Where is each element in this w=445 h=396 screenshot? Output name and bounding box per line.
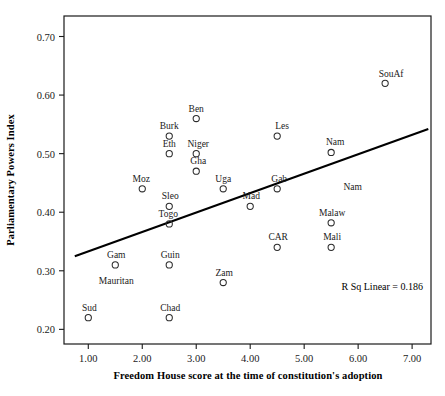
point-label: Niger bbox=[187, 139, 209, 149]
point-label: Gab bbox=[271, 174, 287, 184]
point-label: Ben bbox=[189, 104, 205, 114]
y-tick-label: 0.60 bbox=[37, 90, 55, 101]
point-label: Zam bbox=[216, 268, 234, 278]
y-tick-label: 0.70 bbox=[37, 32, 55, 43]
x-tick-label: 1.00 bbox=[79, 353, 97, 364]
point-label: Chad bbox=[160, 303, 180, 313]
x-tick-label: 6.00 bbox=[349, 353, 367, 364]
point-label: Nam bbox=[344, 182, 363, 192]
y-tick-label: 0.40 bbox=[37, 207, 55, 218]
x-tick-label: 7.00 bbox=[403, 353, 421, 364]
x-tick-label: 3.00 bbox=[187, 353, 205, 364]
r-squared-annotation: R Sq Linear = 0.186 bbox=[342, 281, 423, 292]
x-tick-label: 4.00 bbox=[241, 353, 259, 364]
point-label: Burk bbox=[160, 121, 179, 131]
point-label: Mali bbox=[323, 232, 341, 242]
point-label: Les bbox=[275, 121, 289, 131]
point-label: Sleo bbox=[162, 191, 179, 201]
scatter-chart: 1.002.003.004.005.006.007.00 0.200.300.4… bbox=[0, 0, 445, 396]
y-tick-label: 0.50 bbox=[37, 149, 55, 160]
chart-canvas: 1.002.003.004.005.006.007.00 0.200.300.4… bbox=[0, 0, 445, 396]
data-point: Nam bbox=[344, 182, 363, 192]
x-tick-label: 5.00 bbox=[295, 353, 313, 364]
point-label: Nam bbox=[326, 137, 345, 147]
point-label: Uga bbox=[215, 174, 232, 184]
point-label: Guin bbox=[161, 250, 180, 260]
point-label: CAR bbox=[268, 232, 288, 242]
point-label: Moz bbox=[133, 174, 150, 184]
x-axis-title: Freedom House score at the time of const… bbox=[113, 370, 382, 381]
y-tick-label: 0.30 bbox=[37, 266, 55, 277]
point-label: Malaw bbox=[319, 208, 346, 218]
point-label: Eth bbox=[163, 139, 176, 149]
point-label: Mad bbox=[242, 191, 260, 201]
point-label: Togo bbox=[159, 209, 179, 219]
point-label: SouAf bbox=[379, 69, 405, 79]
point-label: Gha bbox=[190, 156, 207, 166]
point-label: Gam bbox=[107, 250, 126, 260]
data-point: Mauritan bbox=[99, 276, 134, 286]
point-label: Sud bbox=[82, 303, 97, 313]
y-axis-title: Parliamentary Powers Index bbox=[5, 114, 16, 246]
y-tick-label: 0.20 bbox=[37, 324, 55, 335]
x-tick-label: 2.00 bbox=[133, 353, 151, 364]
chart-background bbox=[0, 0, 445, 396]
point-label: Mauritan bbox=[99, 276, 134, 286]
